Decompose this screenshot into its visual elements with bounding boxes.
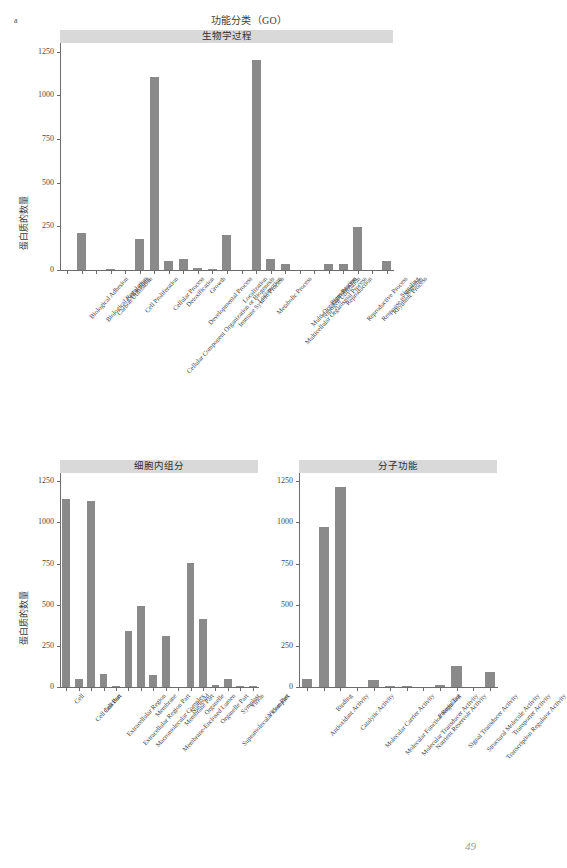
bar bbox=[451, 666, 461, 687]
bar bbox=[368, 680, 378, 687]
x-tick-0-20 bbox=[358, 271, 359, 274]
bar bbox=[77, 233, 86, 270]
y-tick-0-250 bbox=[57, 226, 60, 227]
x-tick-2-2 bbox=[340, 688, 341, 691]
y-tick-label-0-1250: 1250 bbox=[24, 47, 54, 56]
bar bbox=[187, 563, 195, 687]
y-tick-label-1-1250: 1250 bbox=[24, 476, 54, 485]
x-tick-2-1 bbox=[324, 688, 325, 691]
x-tick-1-13 bbox=[228, 688, 229, 691]
x-tick-2-9 bbox=[457, 688, 458, 691]
x-tick-0-9 bbox=[198, 271, 199, 274]
x-category-label: Cell bbox=[73, 692, 86, 705]
x-tick-0-15 bbox=[285, 271, 286, 274]
y-tick-1-750 bbox=[57, 564, 60, 565]
bar bbox=[199, 619, 207, 687]
x-tick-0-7 bbox=[169, 271, 170, 274]
chart-cellular-component: 细胞内组分 蛋白质的数量 025050075010001250CellCell … bbox=[0, 460, 270, 860]
y-tick-label-1-500: 500 bbox=[24, 600, 54, 609]
bar bbox=[382, 261, 391, 270]
y-tick-label-2-1000: 1000 bbox=[263, 517, 293, 526]
x-tick-1-6 bbox=[141, 688, 142, 691]
x-tick-0-18 bbox=[329, 271, 330, 274]
y-tick-2-750 bbox=[296, 564, 299, 565]
x-tick-0-1 bbox=[82, 271, 83, 274]
y-tick-0-500 bbox=[57, 183, 60, 184]
y-tick-1-250 bbox=[57, 646, 60, 647]
x-tick-0-3 bbox=[111, 271, 112, 274]
bar bbox=[249, 686, 257, 687]
y-tick-0-1000 bbox=[57, 95, 60, 96]
y-tick-label-0-500: 500 bbox=[24, 178, 54, 187]
x-tick-1-3 bbox=[104, 688, 105, 691]
bar bbox=[324, 264, 333, 270]
y-tick-1-1250 bbox=[57, 481, 60, 482]
bar bbox=[193, 268, 202, 270]
x-tick-1-0 bbox=[66, 688, 67, 691]
x-tick-2-5 bbox=[390, 688, 391, 691]
x-tick-2-4 bbox=[374, 688, 375, 691]
x-tick-2-7 bbox=[423, 688, 424, 691]
y-tick-1-500 bbox=[57, 605, 60, 606]
bar bbox=[281, 264, 290, 270]
x-tick-0-4 bbox=[125, 271, 126, 274]
y-tick-label-0-1000: 1000 bbox=[24, 90, 54, 99]
bar bbox=[87, 501, 95, 687]
bar bbox=[222, 235, 231, 270]
bar bbox=[302, 679, 312, 687]
y-tick-label-2-750: 750 bbox=[263, 559, 293, 568]
chart-strip-title-1: 细胞内组分 bbox=[60, 460, 258, 473]
y-tick-label-1-250: 250 bbox=[24, 641, 54, 650]
y-tick-0-1250 bbox=[57, 52, 60, 53]
bar bbox=[402, 686, 412, 687]
bar bbox=[353, 227, 362, 270]
y-tick-2-500 bbox=[296, 605, 299, 606]
x-tick-1-10 bbox=[191, 688, 192, 691]
chart-strip-title-0: 生物学过程 bbox=[60, 30, 393, 43]
x-tick-0-10 bbox=[212, 271, 213, 274]
bar bbox=[236, 686, 244, 687]
x-axis-line-1 bbox=[60, 687, 259, 688]
x-tick-0-21 bbox=[372, 271, 373, 274]
y-tick-2-1000 bbox=[296, 522, 299, 523]
y-tick-2-1250 bbox=[296, 481, 299, 482]
figure-title: 功能分类（GO） bbox=[0, 12, 498, 27]
y-tick-label-0-750: 750 bbox=[24, 134, 54, 143]
y-tick-label-0-250: 250 bbox=[24, 221, 54, 230]
bar bbox=[162, 636, 170, 687]
y-tick-2-250 bbox=[296, 646, 299, 647]
bar bbox=[435, 685, 445, 687]
x-tick-1-12 bbox=[215, 688, 216, 691]
x-tick-0-17 bbox=[314, 271, 315, 274]
bar bbox=[485, 672, 495, 687]
chart-molecular-function: 分子功能 025050075010001250Antioxidant Activ… bbox=[270, 460, 498, 860]
x-tick-2-10 bbox=[473, 688, 474, 691]
x-tick-1-5 bbox=[128, 688, 129, 691]
y-tick-label-1-0: 0 bbox=[24, 682, 54, 691]
x-tick-1-14 bbox=[240, 688, 241, 691]
bar bbox=[149, 675, 157, 687]
x-axis-line-2 bbox=[299, 687, 498, 688]
y-tick-1-1000 bbox=[57, 522, 60, 523]
bar bbox=[164, 261, 173, 270]
bar bbox=[62, 499, 70, 687]
bar bbox=[252, 60, 261, 270]
x-tick-0-14 bbox=[271, 271, 272, 274]
y-tick-label-1-1000: 1000 bbox=[24, 517, 54, 526]
bar bbox=[135, 239, 144, 270]
x-tick-2-3 bbox=[357, 688, 358, 691]
x-tick-1-15 bbox=[253, 688, 254, 691]
y-tick-label-1-750: 750 bbox=[24, 559, 54, 568]
bar bbox=[385, 686, 395, 687]
bar bbox=[319, 527, 329, 688]
x-tick-0-19 bbox=[343, 271, 344, 274]
y-tick-label-0-0: 0 bbox=[24, 265, 54, 274]
y-tick-label-2-250: 250 bbox=[263, 641, 293, 650]
x-tick-1-2 bbox=[91, 688, 92, 691]
y-tick-label-2-0: 0 bbox=[263, 682, 293, 691]
x-tick-2-0 bbox=[307, 688, 308, 691]
bar bbox=[266, 259, 275, 270]
bar bbox=[212, 685, 220, 687]
x-tick-0-2 bbox=[96, 271, 97, 274]
x-tick-0-0 bbox=[67, 271, 68, 274]
